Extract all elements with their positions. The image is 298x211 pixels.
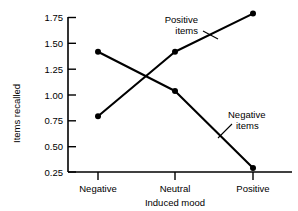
x-tick-label: Positive [236,183,269,194]
y-tick-label: 0.75 [45,115,64,126]
chart-svg: 1.75 1.50 1.25 1.00 0.75 0.50 0.25 Items… [0,0,298,211]
y-tick-label: 1.50 [45,38,64,49]
y-tick-label: 0.25 [45,167,64,178]
y-tick-label: 1.25 [45,64,64,75]
annotation-positive-line2: items [175,25,198,36]
data-point-marker [172,49,178,55]
y-tick-label: 1.00 [45,90,64,101]
y-tick-label: 1.75 [45,12,64,23]
annotation-negative-line2: items [236,120,259,131]
x-tick-label: Neutral [160,183,191,194]
data-point-marker [172,88,178,94]
data-point-marker [95,49,101,55]
data-point-marker [95,113,101,119]
x-tick-labels: Negative Neutral Positive [79,183,269,194]
x-axis-title: Induced mood [145,197,205,208]
y-tick-label: 0.50 [45,141,64,152]
annotation-positive-line1: Positive [165,14,198,25]
annotation-negative-line1: Negative [228,109,266,120]
line-chart-figure: 1.75 1.50 1.25 1.00 0.75 0.50 0.25 Items… [0,0,298,211]
y-axis-title: Items recalled [11,84,22,143]
x-tick-label: Negative [79,183,117,194]
data-point-marker [250,11,256,17]
data-point-marker [250,165,256,171]
